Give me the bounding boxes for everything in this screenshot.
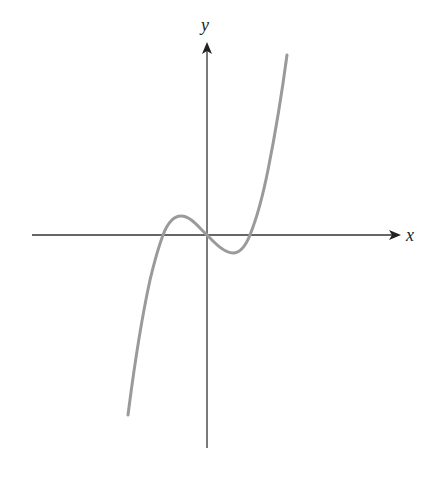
cubic-graph: y x xyxy=(0,0,441,483)
x-axis-label: x xyxy=(405,225,414,245)
y-axis-label: y xyxy=(199,15,209,35)
